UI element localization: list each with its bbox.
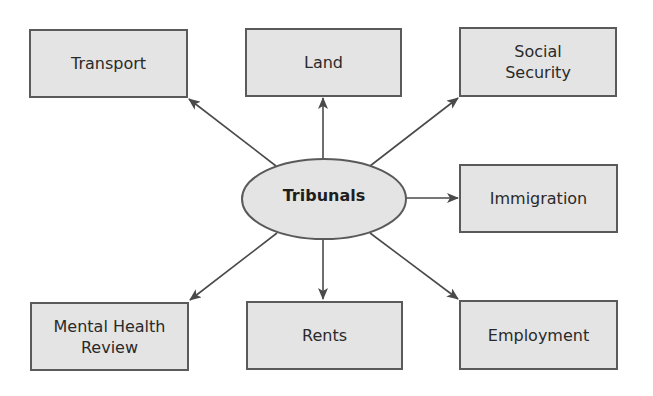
arrow-to-social-security [370, 98, 458, 166]
node-social-security: Social Security [459, 27, 617, 97]
arrow-to-transport [189, 99, 276, 166]
arrow-to-mental-health-review [190, 233, 277, 300]
node-label: Mental Health Review [54, 316, 166, 358]
arrow-to-employment [370, 233, 458, 299]
node-label: Rents [302, 325, 347, 346]
node-land: Land [245, 28, 402, 97]
node-transport: Transport [29, 29, 188, 98]
node-label: Land [304, 52, 343, 73]
node-label: Immigration [490, 188, 588, 209]
node-immigration: Immigration [459, 164, 618, 233]
node-label: Employment [488, 325, 589, 346]
hub-label: Tribunals [242, 186, 406, 205]
node-label: Transport [71, 53, 146, 74]
node-rents: Rents [246, 301, 403, 370]
node-mental-health-review: Mental Health Review [30, 302, 189, 371]
node-employment: Employment [459, 300, 618, 370]
node-label: Social Security [505, 41, 571, 83]
